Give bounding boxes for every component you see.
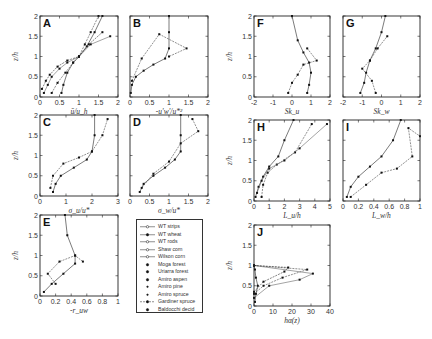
- data-marker: [268, 285, 270, 287]
- legend-item: Amiro pine: [139, 283, 203, 291]
- y-tick-label: 1: [34, 53, 38, 60]
- y-axis-label: z/h: [11, 151, 20, 161]
- data-marker: [60, 175, 62, 177]
- y-tick-label: 0.5: [28, 172, 38, 179]
- data-marker: [64, 72, 66, 74]
- y-tick-label: 0.5: [242, 177, 252, 184]
- x-tick-label: 1.5: [184, 99, 194, 106]
- legend-label: Amiro spruce: [158, 291, 189, 299]
- x-tick-label: 0: [380, 99, 384, 106]
- legend-label: Amiro aspen: [158, 276, 187, 284]
- panel-c: C012300.511.52σ_u/u*z/h: [11, 112, 120, 216]
- data-marker: [94, 134, 96, 136]
- y-tick-label: 1.5: [28, 132, 38, 139]
- x-tick-label: 2: [90, 198, 94, 205]
- panel-label: A: [43, 17, 51, 29]
- y-tick-label: 1.5: [242, 137, 252, 144]
- data-marker: [377, 47, 379, 49]
- series-line: [288, 48, 317, 93]
- panel-label: I: [346, 121, 349, 133]
- legend-marker-icon: [139, 238, 156, 246]
- x-tick-label: 1: [167, 198, 171, 205]
- y-tick-label: 1.5: [28, 33, 38, 40]
- legend-label: WT strips: [158, 223, 180, 231]
- x-axis-label: L_w/h: [371, 211, 391, 220]
- plot-frame: [254, 225, 330, 306]
- x-tick-label: 1: [77, 99, 81, 106]
- data-marker: [277, 155, 279, 157]
- data-marker: [350, 186, 352, 188]
- x-axis-label: -r_uw: [70, 306, 88, 315]
- data-marker: [84, 43, 86, 45]
- data-marker: [62, 84, 64, 86]
- data-marker: [78, 56, 80, 58]
- panel-label: J: [257, 226, 263, 238]
- x-axis-label: σ_w/u*: [158, 206, 180, 215]
- data-marker: [143, 70, 145, 72]
- x-tick-label: 20: [288, 308, 296, 315]
- x-tick-label: 0: [341, 203, 345, 210]
- data-marker: [299, 147, 301, 149]
- x-tick-label: 1: [399, 99, 403, 106]
- legend-marker-icon: [139, 276, 156, 284]
- x-axis-label: L_u/h: [282, 211, 301, 220]
- data-marker: [88, 43, 90, 45]
- legend-label: Baldocchi decid: [158, 306, 194, 314]
- legend-item: WT rods: [139, 238, 203, 246]
- data-marker: [152, 175, 154, 177]
- data-marker: [299, 279, 301, 281]
- x-tick-label: 0.5: [55, 99, 65, 106]
- data-marker: [152, 173, 154, 175]
- data-marker: [306, 92, 308, 94]
- legend-item: Shaw corn: [139, 246, 203, 254]
- x-tick-label: 5: [328, 203, 332, 210]
- data-marker: [43, 92, 45, 94]
- data-marker: [386, 35, 388, 37]
- data-marker: [51, 283, 53, 285]
- data-marker: [62, 273, 64, 275]
- data-marker: [263, 285, 265, 287]
- y-tick-label: 0: [34, 193, 38, 200]
- data-marker: [282, 277, 284, 279]
- data-marker: [141, 187, 143, 189]
- data-marker: [131, 80, 133, 82]
- data-marker: [152, 64, 154, 66]
- x-tick-label: 1: [167, 99, 171, 106]
- panel-b: B00.511.52-u'w'/u*²: [128, 15, 210, 116]
- data-marker: [396, 168, 398, 170]
- y-tick-label: 1: [34, 252, 38, 259]
- data-marker: [164, 167, 166, 169]
- x-tick-label: 2: [206, 99, 210, 106]
- data-marker: [139, 191, 141, 193]
- legend-label: Uriarra forest: [158, 268, 188, 276]
- data-marker: [174, 159, 176, 161]
- data-marker: [55, 183, 57, 185]
- x-tick-label: 4: [313, 203, 317, 210]
- y-tick-label: 0: [248, 94, 252, 101]
- data-marker: [287, 267, 289, 269]
- x-axis-label: hα(z): [284, 316, 300, 325]
- data-marker: [191, 118, 193, 120]
- x-tick-label: -1: [359, 99, 365, 106]
- data-marker: [312, 273, 314, 275]
- data-marker: [306, 269, 308, 271]
- data-marker: [168, 56, 170, 58]
- data-marker: [51, 76, 53, 78]
- legend-marker-icon: [139, 231, 156, 239]
- data-marker: [350, 196, 352, 198]
- legend-marker-icon: [139, 223, 156, 231]
- y-tick-label: 1.5: [242, 33, 252, 40]
- panel-label: C: [43, 116, 51, 128]
- data-marker: [168, 161, 170, 163]
- x-tick-label: 2: [282, 203, 286, 210]
- series-line: [362, 36, 387, 93]
- data-marker: [255, 277, 257, 279]
- x-tick-label: 40: [326, 308, 334, 315]
- legend: WT stripsWT wheatWT rodsShaw cornWilson …: [136, 219, 203, 313]
- panel-e: E00.20.40.60.8100.511.52-r_uwz/h: [11, 212, 120, 316]
- series-line: [42, 32, 102, 89]
- y-tick-label: 1: [34, 152, 38, 159]
- x-tick-label: 0: [38, 298, 42, 305]
- data-marker: [268, 166, 270, 168]
- data-marker: [365, 184, 367, 186]
